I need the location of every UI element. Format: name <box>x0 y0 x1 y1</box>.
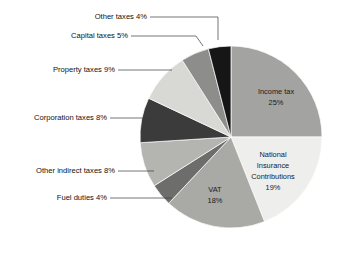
callout-label-capital-taxes: Capital taxes 5% <box>71 31 128 40</box>
callout-label-other-indirect-taxes: Other indirect taxes 8% <box>36 166 115 175</box>
pie-chart-figure: Other taxes 4% Capital taxes 5% Property… <box>0 0 353 259</box>
slice-label-nic-line1: National <box>259 150 286 159</box>
pie-chart-svg: Other taxes 4% Capital taxes 5% Property… <box>0 0 353 259</box>
slice-label-nic-line2: Insurance <box>257 161 289 170</box>
leader-line-capital-taxes <box>131 36 203 46</box>
callout-label-group: Other taxes 4% Capital taxes 5% Property… <box>34 12 147 202</box>
callout-label-property-taxes: Property taxes 9% <box>53 65 115 74</box>
slice-label-vat-name: VAT <box>208 185 222 194</box>
slice-label-vat-value: 18% <box>208 196 223 205</box>
callout-label-other-taxes: Other taxes 4% <box>95 12 148 21</box>
slice-label-nic-line3: Contributions <box>251 172 295 181</box>
pie-wedge-group <box>140 46 322 228</box>
callout-label-fuel-duties: Fuel duties 4% <box>57 193 107 202</box>
slice-label-income-tax-name: Income tax <box>258 87 294 96</box>
slice-label-nic-value: 19% <box>266 183 281 192</box>
callout-label-corporation-taxes: Corporation taxes 8% <box>34 113 107 122</box>
slice-label-income-tax-value: 25% <box>269 98 284 107</box>
leader-line-other-taxes <box>150 17 218 40</box>
